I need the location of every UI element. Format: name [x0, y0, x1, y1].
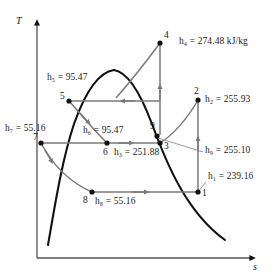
process-paths	[41, 43, 198, 192]
state-point-9[interactable]	[154, 133, 159, 138]
enthalpy-label-h6: h₆ = 95.47	[83, 126, 124, 136]
process-4-to-dome	[116, 43, 160, 98]
process-3-to-2	[160, 100, 198, 143]
enthalpy-label-h7: h₇ = 55.16	[5, 124, 46, 134]
state-label-1: 1	[202, 189, 207, 199]
enthalpy-label-h5: h₅ = 95.47	[47, 73, 88, 83]
state-point-8[interactable]	[89, 189, 94, 194]
state-label-9: 9	[150, 122, 155, 132]
state-label-7: 7	[33, 133, 38, 143]
state-label-8: 8	[83, 196, 88, 206]
state-label-5: 5	[60, 92, 65, 102]
state-point-7[interactable]	[38, 140, 43, 145]
state-label-3: 3	[164, 142, 169, 152]
saturated-liquid-line	[48, 70, 114, 245]
enthalpy-label-h3: h₃ = 251.88	[114, 148, 159, 158]
enthalpy-label-h2: h₂ = 255.93	[205, 95, 250, 105]
state-point-4[interactable]	[157, 40, 162, 45]
state-label-2: 2	[194, 87, 199, 97]
process-5-to-6-arrow	[80, 113, 89, 123]
state-point-3[interactable]	[157, 140, 162, 145]
ts-diagram: T s 4 2 5 9 3 7 6 8 1 h₄ = 274.48 kJ/kg …	[0, 0, 277, 280]
enthalpy-label-h9: h₉ = 255.10	[205, 146, 250, 156]
y-axis-label: T	[16, 16, 22, 26]
enthalpy-label-h8: h₈ = 55.16	[95, 197, 136, 207]
enthalpy-label-h4: h₄ = 274.48 kJ/kg	[179, 37, 248, 47]
x-axis-label: s	[253, 262, 257, 272]
state-point-2[interactable]	[195, 97, 200, 102]
state-point-1[interactable]	[195, 189, 200, 194]
state-label-4: 4	[164, 31, 169, 41]
enthalpy-label-h1: h₁ = 239.16	[208, 172, 253, 182]
process-7-to-8-arrow	[45, 150, 52, 162]
state-point-5[interactable]	[66, 98, 71, 103]
state-label-6: 6	[103, 148, 108, 158]
state-point-6[interactable]	[104, 140, 109, 145]
